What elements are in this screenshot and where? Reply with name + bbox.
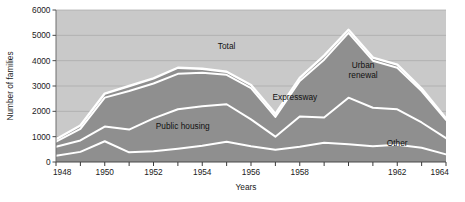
y-tick-label: 1000	[32, 132, 51, 142]
x-tick-label: 1952	[144, 167, 163, 177]
y-tick-label: 0	[46, 157, 51, 167]
x-tick-label: 1964	[431, 167, 450, 177]
x-tick-label: 1948	[53, 167, 72, 177]
x-tick-label: 1954	[193, 167, 212, 177]
annotation-total: Total	[218, 41, 236, 51]
y-tick-label: 5000	[32, 30, 51, 40]
y-tick-label: 2000	[32, 106, 51, 116]
y-axis-ticks: 0100020003000400050006000	[32, 5, 56, 167]
annotation-expressway: Expressway	[273, 92, 319, 102]
y-tick-label: 6000	[32, 5, 51, 15]
stacked-area-chart: 0100020003000400050006000 19481950195219…	[0, 0, 465, 202]
chart-container: 0100020003000400050006000 19481950195219…	[0, 0, 465, 202]
y-tick-label: 4000	[32, 56, 51, 66]
x-tick-label: 1956	[242, 167, 261, 177]
x-axis-ticks: 19481950195219541956195819621964	[53, 162, 449, 177]
x-tick-label: 1950	[96, 167, 115, 177]
x-tick-label: 1962	[388, 167, 407, 177]
annotation-public-housing: Public housing	[156, 121, 210, 131]
y-axis-title: Number of families	[5, 51, 15, 120]
annotation-other: Other	[387, 138, 408, 148]
y-tick-label: 3000	[32, 81, 51, 91]
x-axis-title: Years	[236, 182, 257, 192]
x-tick-label: 1958	[291, 167, 310, 177]
annotation-urban-renewal: Urbanrenewal	[349, 60, 378, 80]
